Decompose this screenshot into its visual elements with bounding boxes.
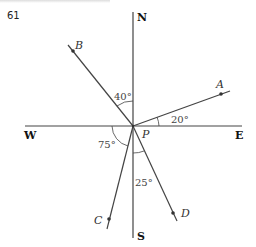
angle-label-40: 40° [114,91,132,102]
compass-diagram: N S E W P A B C D 20° 40° 75° 25° [0,0,256,247]
label-c: C [94,214,103,227]
point-a-dot [219,92,223,96]
label-d: D [180,207,190,220]
label-a: A [215,78,224,91]
arc-20 [157,117,159,126]
point-d-dot [171,211,175,215]
angle-label-20: 20° [171,114,189,125]
label-west: W [23,129,37,142]
angle-label-75: 75° [98,139,116,150]
point-c-dot [107,217,111,221]
ray-d [133,126,177,221]
label-b: B [74,39,83,52]
center-dot [132,125,134,127]
arc-25 [133,151,144,153]
label-south: S [137,230,145,243]
label-north: N [137,11,147,24]
label-p: P [141,128,150,141]
angle-label-25: 25° [135,177,153,188]
label-east: E [235,129,243,142]
ray-b [68,45,133,126]
